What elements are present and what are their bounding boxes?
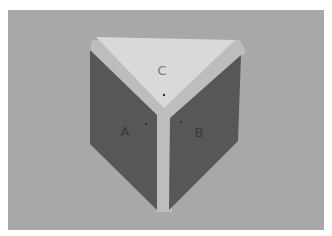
label-a: A	[121, 124, 130, 139]
label-c: C	[157, 63, 166, 78]
label-b: B	[195, 125, 204, 140]
dot-a	[145, 123, 147, 125]
dot-c	[163, 94, 165, 96]
dot-b	[180, 121, 182, 123]
photo: C A B	[0, 0, 332, 236]
